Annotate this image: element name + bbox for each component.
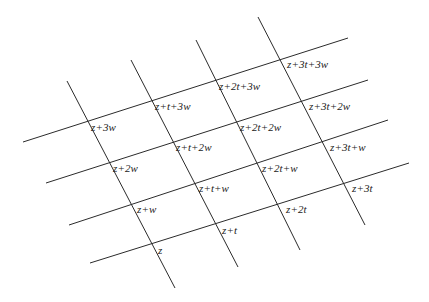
lattice-point-label-n-0-2: z+2w <box>113 163 138 174</box>
lattice-point-label-n-3-0: z+3t <box>352 183 373 194</box>
lattice-point-label-n-2-2: z+2t+2w <box>240 122 281 133</box>
lattice-label-layer: zz+tz+2tz+3tz+wz+t+wz+2t+wz+3t+wz+2wz+t+… <box>0 0 429 302</box>
lattice-diagram-figure: zz+tz+2tz+3tz+wz+t+wz+2t+wz+3t+wz+2wz+t+… <box>0 0 429 302</box>
lattice-point-label-n-3-2: z+3t+2w <box>309 101 350 112</box>
lattice-point-label-n-3-1: z+3t+w <box>330 142 366 153</box>
lattice-point-label-n-0-1: z+w <box>137 204 156 215</box>
lattice-point-label-n-3-3: z+3t+3w <box>287 59 328 70</box>
lattice-point-label-n-1-2: z+t+2w <box>176 142 212 153</box>
lattice-point-label-n-0-0: z <box>158 245 162 256</box>
lattice-point-label-n-2-0: z+2t <box>286 204 307 215</box>
lattice-point-label-n-0-3: z+3w <box>91 122 116 133</box>
lattice-point-label-n-1-3: z+t+3w <box>155 101 191 112</box>
lattice-point-label-n-2-3: z+2t+3w <box>219 81 260 92</box>
lattice-point-label-n-1-1: z+t+w <box>199 183 229 194</box>
lattice-point-label-n-2-1: z+2t+w <box>262 163 298 174</box>
lattice-point-label-n-1-0: z+t <box>222 225 237 236</box>
